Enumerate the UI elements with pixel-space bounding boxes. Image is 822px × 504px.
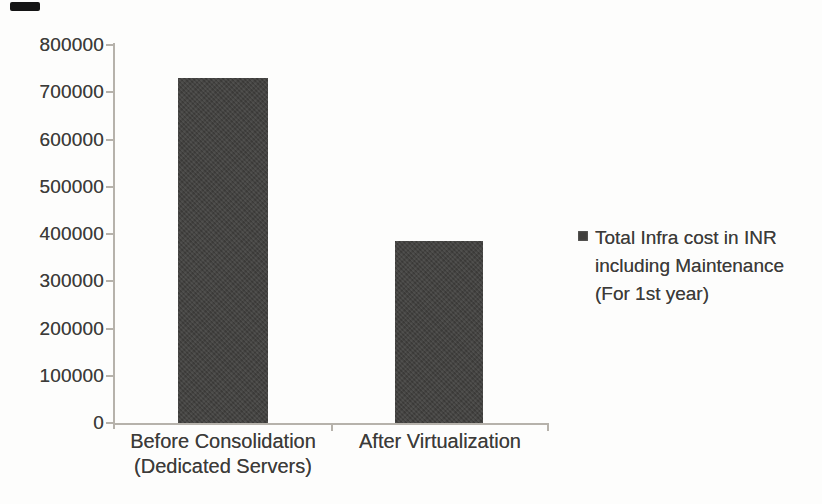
y-tick-mark: [106, 91, 114, 93]
bar-before-consolidation: [178, 78, 268, 423]
y-tick-mark: [106, 186, 114, 188]
bar-after-virtualization: [395, 241, 483, 423]
scanned-chart-page: 8000007000006000005000004000003000002000…: [0, 0, 822, 504]
y-tick-mark: [106, 375, 114, 377]
legend-marker-square-icon: [578, 231, 588, 241]
category-label-line: Before Consolidation: [115, 429, 331, 454]
category-label-after-virtualization: After Virtualization: [331, 429, 549, 454]
y-tick-mark: [106, 422, 114, 424]
y-tick-label: 400000: [0, 223, 104, 245]
y-tick-label: 100000: [0, 365, 104, 387]
y-tick-label: 800000: [0, 34, 104, 56]
y-tick-label: 700000: [0, 81, 104, 103]
y-tick-label: 500000: [0, 176, 104, 198]
y-tick-label: 0: [0, 412, 104, 434]
category-label-before-consolidation: Before Consolidation (Dedicated Servers): [115, 429, 331, 479]
legend-line: (For 1st year): [595, 280, 822, 308]
y-axis-line: [113, 43, 115, 429]
legend-text: Total Infra cost in INR including Mainte…: [595, 224, 822, 308]
category-label-line: (Dedicated Servers): [115, 454, 331, 479]
y-tick-mark: [106, 328, 114, 330]
y-tick-mark: [106, 44, 114, 46]
y-tick-mark: [106, 139, 114, 141]
category-label-line: After Virtualization: [331, 429, 549, 454]
legend-line: including Maintenance: [595, 252, 822, 280]
plot-area: [115, 45, 549, 423]
y-tick-label: 600000: [0, 129, 104, 151]
legend-line: Total Infra cost in INR: [595, 224, 822, 252]
y-tick-mark: [106, 233, 114, 235]
y-tick-label: 200000: [0, 318, 104, 340]
y-axis-labels: 8000007000006000005000004000003000002000…: [0, 45, 104, 423]
y-tick-mark: [106, 280, 114, 282]
y-tick-label: 300000: [0, 270, 104, 292]
